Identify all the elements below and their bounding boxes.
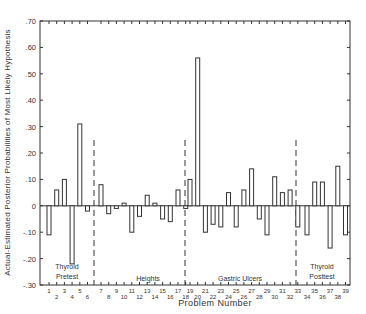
group-label: Heights [136, 275, 160, 283]
bar [176, 190, 180, 206]
bar [145, 195, 149, 206]
x-tick-label: 36 [319, 294, 326, 300]
x-axis-label: Problem Number [140, 298, 290, 308]
y-tick-label: .20 [26, 149, 36, 158]
x-tick-label: 33 [294, 288, 301, 294]
bar [203, 206, 207, 232]
bar [196, 58, 200, 206]
bar [328, 206, 332, 248]
bar [336, 166, 340, 206]
bar [250, 169, 254, 206]
bar [344, 206, 348, 235]
bar [70, 206, 74, 264]
x-tick-label: 27 [248, 288, 255, 294]
x-tick-label: 9 [115, 288, 119, 294]
bar [227, 193, 231, 206]
x-tick-label: 6 [86, 294, 90, 300]
x-tick-label: 21 [202, 288, 209, 294]
bar [265, 206, 269, 235]
bar [188, 179, 192, 205]
bar [161, 206, 165, 219]
x-tick-label: 10 [121, 294, 128, 300]
y-tick-label: .70 [26, 17, 36, 26]
x-tick-label: 25 [233, 288, 240, 294]
group-label: Gastric Ulcers [218, 275, 262, 282]
x-tick-label: 38 [334, 294, 341, 300]
bar-chart: .70.60.50.40.30.20.100-.10-.20-.30123456… [0, 0, 366, 314]
x-tick-label: 35 [311, 288, 318, 294]
y-axis-label: Actual-Estimated Posterior Probabilities… [3, 28, 12, 278]
bar [122, 203, 126, 206]
bar [296, 206, 300, 227]
bar [107, 206, 111, 214]
x-tick-label: 1 [47, 288, 51, 294]
x-tick-label: 39 [342, 288, 349, 294]
bar [242, 190, 246, 206]
bar [257, 206, 261, 219]
bar [211, 206, 215, 224]
bar [47, 206, 51, 235]
group-label: Thyroid [310, 263, 333, 271]
group-label: Pretest [56, 273, 78, 280]
bar [130, 206, 134, 232]
x-tick-label: 11 [129, 288, 136, 294]
bar [288, 190, 292, 206]
bar [320, 182, 324, 206]
x-tick-label: 2 [55, 294, 59, 300]
bar [78, 124, 82, 206]
x-tick-label: 34 [304, 294, 311, 300]
bar [55, 190, 59, 206]
bar [153, 203, 157, 206]
y-tick-label: -.10 [23, 228, 36, 237]
bar [99, 185, 103, 206]
y-tick-label: .60 [26, 43, 36, 52]
x-tick-label: 31 [279, 288, 286, 294]
y-tick-label: 0 [32, 202, 36, 211]
x-tick-label: 15 [159, 288, 166, 294]
group-label: Posttest [309, 273, 334, 280]
x-tick-label: 37 [327, 288, 334, 294]
bar [313, 182, 317, 206]
y-tick-label: .50 [26, 70, 36, 79]
bar [219, 206, 223, 227]
x-tick-label: 8 [107, 294, 111, 300]
bar [62, 179, 66, 205]
x-tick-label: 3 [63, 288, 67, 294]
x-tick-label: 23 [217, 288, 224, 294]
x-tick-label: 5 [78, 288, 82, 294]
bar [86, 206, 90, 211]
bar [114, 206, 118, 209]
x-tick-label: 19 [187, 288, 194, 294]
x-tick-label: 13 [144, 288, 151, 294]
x-tick-label: 4 [70, 294, 74, 300]
bar [280, 193, 284, 206]
plot-frame [40, 21, 350, 285]
y-tick-label: .30 [26, 123, 36, 132]
bar [305, 206, 309, 235]
bar [234, 206, 238, 227]
x-tick-label: 7 [99, 288, 103, 294]
y-tick-label: .10 [26, 175, 36, 184]
y-tick-label: -.20 [23, 255, 36, 264]
bar [138, 206, 142, 217]
bar [273, 177, 277, 206]
bar [184, 206, 188, 209]
x-tick-label: 29 [264, 288, 271, 294]
x-tick-label: 17 [175, 288, 182, 294]
y-tick-label: .40 [26, 96, 36, 105]
bar [168, 206, 172, 222]
group-label: Thyroid [55, 263, 78, 271]
y-tick-label: -.30 [23, 281, 36, 290]
